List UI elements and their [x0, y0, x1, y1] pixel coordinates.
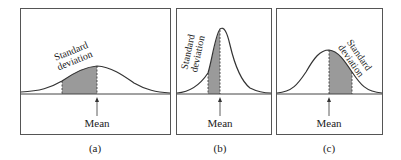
- panel-b-caption: (b): [200, 142, 240, 154]
- panel-a-caption: (a): [75, 142, 115, 154]
- panel-c-mean-label: Mean: [314, 118, 344, 129]
- panel-b-sd-shade: [208, 30, 220, 94]
- panel-c-caption: (c): [309, 142, 349, 154]
- panel-c-arrow-head: [327, 97, 331, 102]
- panel-b-mean-label: Mean: [205, 118, 235, 129]
- panel-a-arrow-head: [95, 97, 99, 102]
- panel-a-mean-label: Mean: [82, 118, 112, 129]
- distribution-diagram: [0, 0, 401, 160]
- panel-b-arrow-head: [218, 97, 222, 102]
